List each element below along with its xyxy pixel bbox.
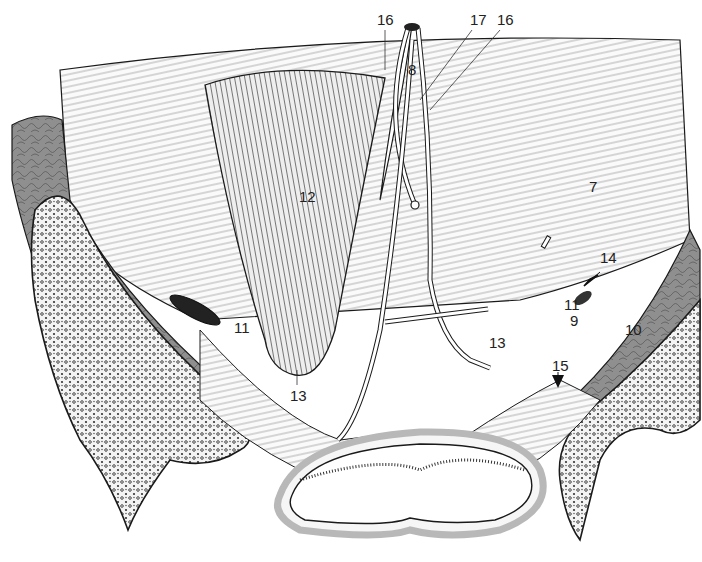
cord-top — [404, 23, 420, 31]
label-15: 15 — [552, 358, 569, 373]
pelvis-illustration — [0, 0, 702, 562]
label-14: 14 — [600, 250, 617, 265]
label-11-left: 11 — [234, 320, 250, 335]
label-12: 12 — [299, 189, 316, 204]
nerve-cut-end — [411, 201, 419, 209]
label-11-right: 11 — [564, 297, 580, 312]
label-8: 8 — [408, 62, 416, 77]
label-16-right: 16 — [497, 12, 514, 27]
label-16-left: 16 — [377, 12, 394, 27]
label-9: 9 — [570, 313, 578, 328]
label-13-left: 13 — [290, 388, 307, 403]
label-10: 10 — [625, 322, 642, 337]
label-7: 7 — [589, 179, 597, 194]
label-13-right: 13 — [489, 335, 506, 350]
label-17: 17 — [470, 12, 487, 27]
anatomical-figure: 16 17 16 8 12 7 14 11 9 10 11 13 15 13 — [0, 0, 702, 562]
